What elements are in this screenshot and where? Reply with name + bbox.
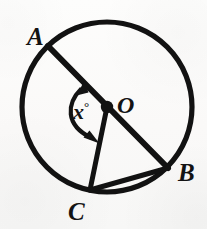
point-label-o: O: [117, 93, 134, 117]
segment-radius-OC: [90, 107, 107, 190]
point-label-a: A: [27, 24, 44, 49]
angle-value-label: x°: [73, 100, 89, 123]
angle-variable-text: x: [73, 99, 84, 124]
geometry-figure: A O B C x°: [0, 0, 207, 229]
degree-symbol: °: [84, 99, 89, 114]
point-label-b: B: [178, 160, 195, 185]
angle-arrowhead-lower: [84, 131, 100, 144]
center-point-dot: [101, 101, 113, 113]
point-label-c: C: [68, 199, 85, 224]
